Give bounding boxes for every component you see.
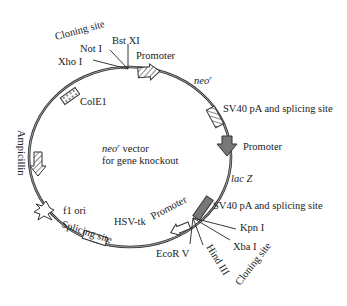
ampicillin-arrow — [30, 152, 46, 176]
label-splicing-site: Splicing site — [60, 218, 113, 245]
label-cole1: ColE1 — [80, 96, 107, 107]
cloning-site-bottom-lines — [190, 218, 236, 245]
promoter-top-arrow — [137, 63, 160, 80]
f1-ori-marker — [34, 201, 54, 220]
label-xba1: Xba I — [233, 241, 257, 252]
label-sv40-top: SV40 pA and splicing site — [223, 103, 333, 114]
label-kpn1: Kpn I — [240, 222, 265, 233]
label-bstx1: Bst XI — [112, 35, 140, 46]
plasmid-map: Cloning site Not I Bst XI Xho I Promoter… — [0, 0, 347, 306]
label-cloning-site-top: Cloning site — [54, 18, 106, 42]
label-not1: Not I — [80, 43, 102, 54]
promoter-right-arrow — [217, 136, 237, 156]
sv40-bottom-marker — [193, 196, 213, 220]
center-title-line2: for gene knockout — [102, 155, 178, 166]
label-lacz: lac Z — [231, 173, 252, 184]
center-title-line1: neor vector — [102, 142, 149, 154]
hsv-tk-promoter-arrow — [168, 220, 191, 239]
label-xho1: Xho I — [58, 56, 83, 67]
label-hind3: Hind III — [204, 242, 232, 277]
label-promoter-right: Promoter — [243, 141, 283, 152]
label-hsv-tk: HSV-tk — [114, 216, 146, 227]
label-f1-ori: f1 ori — [63, 205, 86, 216]
label-ampicillin: Ampicillin — [16, 130, 27, 176]
label-neo-r: neor — [194, 74, 212, 86]
label-ecorv: EcoR V — [156, 248, 190, 259]
label-promoter-bottom: Promoter — [149, 193, 189, 221]
label-sv40-bottom: SV40 pA and splicing site — [213, 200, 323, 211]
label-promoter-top: Promoter — [136, 50, 176, 61]
